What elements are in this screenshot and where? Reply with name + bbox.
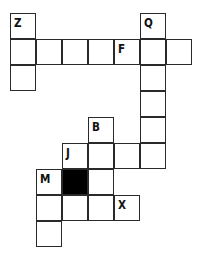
cell-letter: Z bbox=[14, 15, 22, 30]
crossword-grid: ZQFBJMX bbox=[0, 0, 204, 260]
grid-cell-r5-c4[interactable] bbox=[114, 143, 140, 169]
grid-cell-r8-c1[interactable] bbox=[36, 221, 62, 247]
grid-cell-r6-c1[interactable]: M bbox=[36, 169, 62, 195]
cell-letter: F bbox=[118, 41, 125, 56]
cell-letter: X bbox=[118, 197, 126, 212]
grid-cell-r7-c1[interactable] bbox=[36, 195, 62, 221]
cell-letter: M bbox=[40, 171, 50, 186]
cell-letter: Q bbox=[144, 15, 153, 30]
grid-cell-r5-c5[interactable] bbox=[140, 143, 166, 169]
grid-cell-r7-c3[interactable] bbox=[88, 195, 114, 221]
grid-cell-r1-c0[interactable] bbox=[10, 39, 36, 65]
grid-cell-r1-c4[interactable]: F bbox=[114, 39, 140, 65]
cell-letter: J bbox=[66, 145, 70, 160]
grid-cell-r6-c3[interactable] bbox=[88, 169, 114, 195]
grid-cell-r7-c4[interactable]: X bbox=[114, 195, 140, 221]
grid-cell-r2-c5[interactable] bbox=[140, 65, 166, 91]
grid-cell-r3-c5[interactable] bbox=[140, 91, 166, 117]
grid-cell-r1-c6[interactable] bbox=[166, 39, 192, 65]
black-cell bbox=[62, 169, 88, 195]
grid-cell-r4-c3[interactable]: B bbox=[88, 117, 114, 143]
grid-cell-r1-c3[interactable] bbox=[88, 39, 114, 65]
grid-cell-r0-c5[interactable]: Q bbox=[140, 13, 166, 39]
grid-cell-r7-c2[interactable] bbox=[62, 195, 88, 221]
grid-cell-r4-c5[interactable] bbox=[140, 117, 166, 143]
grid-cell-r1-c1[interactable] bbox=[36, 39, 62, 65]
grid-cell-r5-c3[interactable] bbox=[88, 143, 114, 169]
grid-cell-r2-c0[interactable] bbox=[10, 65, 36, 91]
grid-cell-r1-c2[interactable] bbox=[62, 39, 88, 65]
grid-cell-r1-c5[interactable] bbox=[140, 39, 166, 65]
grid-cell-r0-c0[interactable]: Z bbox=[10, 13, 36, 39]
grid-cell-r5-c2[interactable]: J bbox=[62, 143, 88, 169]
cell-letter: B bbox=[92, 119, 100, 134]
